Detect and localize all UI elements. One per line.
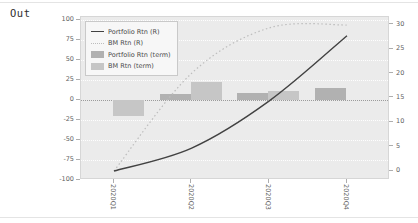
left-tick-label: -25 xyxy=(54,115,74,123)
x-tick-label-text: 2020Q2 xyxy=(187,184,195,210)
right-tick-label: 20 xyxy=(396,69,416,77)
bar-swatch-icon xyxy=(91,63,104,70)
x-tick-label: 2020Q4 xyxy=(329,180,363,214)
line-swatch-icon xyxy=(91,31,104,32)
left-tick xyxy=(76,139,80,140)
legend-item: Portfolio Rtn (term) xyxy=(91,49,171,61)
left-tick-label: -50 xyxy=(54,135,74,143)
left-tick xyxy=(76,159,80,160)
bottom-divider xyxy=(0,217,418,218)
legend-label: BM Rtn (R) xyxy=(108,39,143,47)
legend: Portfolio Rtn (R)BM Rtn (R)Portfolio Rtn… xyxy=(85,21,178,76)
right-tick-label: 0 xyxy=(396,166,416,174)
right-tick xyxy=(389,96,393,97)
x-tick-label-text: 2020Q3 xyxy=(264,184,272,210)
top-divider xyxy=(0,2,418,3)
left-tick-label: -75 xyxy=(54,155,74,163)
left-tick-label: 25 xyxy=(54,75,74,83)
x-tick-label-text: 2020Q4 xyxy=(342,184,350,210)
legend-item: BM Rtn (term) xyxy=(91,61,171,73)
left-tick xyxy=(76,179,80,180)
legend-label: BM Rtn (term) xyxy=(108,62,154,70)
left-tick xyxy=(76,59,80,60)
right-tick xyxy=(389,48,393,49)
legend-item: BM Rtn (R) xyxy=(91,38,171,50)
left-tick-label: 50 xyxy=(54,55,74,63)
left-tick xyxy=(76,119,80,120)
left-tick-label: -100 xyxy=(54,175,74,183)
legend-item: Portfolio Rtn (R) xyxy=(91,26,171,38)
left-tick-label: 75 xyxy=(54,35,74,43)
bar-swatch-icon xyxy=(91,51,104,58)
left-tick xyxy=(76,99,80,100)
right-tick-label: 5 xyxy=(396,142,416,150)
notebook-out-label: Out xyxy=(10,7,30,19)
line-swatch-icon xyxy=(91,43,104,44)
right-tick xyxy=(389,121,393,122)
left-tick xyxy=(76,39,80,40)
right-tick-label: 10 xyxy=(396,117,416,125)
x-tick-label: 2020Q3 xyxy=(251,180,285,214)
right-tick-label: 25 xyxy=(396,44,416,52)
x-tick-label: 2020Q2 xyxy=(174,180,208,214)
right-tick-label: 30 xyxy=(396,20,416,28)
right-tick xyxy=(389,72,393,73)
left-tick xyxy=(76,19,80,20)
left-tick-label: 0 xyxy=(54,95,74,103)
right-tick xyxy=(389,23,393,24)
legend-label: Portfolio Rtn (R) xyxy=(108,28,160,36)
right-tick xyxy=(389,170,393,171)
right-tick-label: 15 xyxy=(396,93,416,101)
x-tick-label-text: 2020Q1 xyxy=(109,184,117,210)
x-tick-label: 2020Q1 xyxy=(96,180,130,214)
left-tick xyxy=(76,79,80,80)
right-tick xyxy=(389,145,393,146)
legend-label: Portfolio Rtn (term) xyxy=(108,51,171,59)
left-tick-label: 100 xyxy=(54,15,74,23)
plot-area: Portfolio Rtn (R)BM Rtn (R)Portfolio Rtn… xyxy=(80,16,389,179)
